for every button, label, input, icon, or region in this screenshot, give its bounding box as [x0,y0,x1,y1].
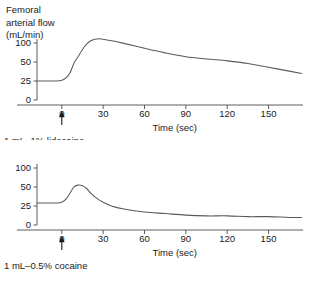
x-tick-label-cocaine-3: 90 [181,233,192,244]
plot-area-lidocaine: 025501000306090120150Time (sec)1 mL–1% l… [0,0,313,140]
x-tick-label-cocaine-4: 120 [219,233,235,244]
injection-caption-cocaine: 1 mL–0.5% cocaine [4,260,87,271]
x-tick-label-cocaine-2: 60 [139,233,150,244]
y-tick-label-lidocaine-0: 0 [26,94,31,105]
x-tick-label-lidocaine-4: 120 [219,108,235,119]
y-tick-label-cocaine-0: 0 [26,219,31,230]
data-curve-lidocaine [37,39,302,81]
y-tick-label-lidocaine-2: 50 [20,56,31,67]
x-tick-label-lidocaine-2: 60 [139,108,150,119]
x-tick-label-cocaine-1: 30 [98,233,109,244]
figure-femoral-arterial-flow: Femoral arterial flow (mL/min) 025501000… [0,0,313,281]
plot-area-cocaine: 025501000306090120150Time (sec)1 mL–0.5%… [0,125,313,281]
y-tick-label-lidocaine-3: 100 [15,37,31,48]
y-tick-label-cocaine-1: 25 [20,200,31,211]
y-tick-label-cocaine-3: 100 [15,162,31,173]
x-tick-label-lidocaine-1: 30 [98,108,109,119]
x-tick-label-lidocaine-5: 150 [261,108,277,119]
data-curve-cocaine [37,185,302,217]
x-tick-label-lidocaine-3: 90 [181,108,192,119]
x-tick-label-cocaine-5: 150 [261,233,277,244]
x-axis-title-cocaine: Time (sec) [153,247,198,258]
y-tick-label-cocaine-2: 50 [20,181,31,192]
y-tick-label-lidocaine-1: 25 [20,75,31,86]
